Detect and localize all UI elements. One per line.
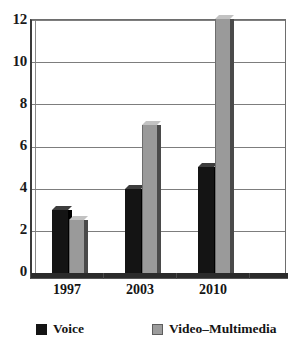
y-tick-label-2: 2	[3, 222, 27, 237]
gridline-12	[32, 20, 285, 21]
y-tick-label-4: 4	[3, 180, 27, 195]
gridline-10	[32, 62, 285, 63]
y-tick-label-8: 8	[3, 96, 27, 111]
bar-side	[84, 220, 88, 273]
y-tick-label-12: 12	[3, 12, 27, 27]
x-tick-3	[249, 273, 250, 279]
y-tick-label-6: 6	[3, 138, 27, 153]
bar-video-2010	[215, 19, 230, 273]
x-tick-label-2010: 2010	[189, 282, 237, 298]
x-axis-labels: 1997 2003 2010	[30, 282, 286, 300]
legend-label-voice: Voice	[53, 321, 84, 337]
bar-voice-2010	[198, 167, 214, 273]
x-tick-2	[176, 273, 177, 279]
y-tick-label-0: 0	[3, 264, 27, 279]
legend: Voice Video–Multimedia	[0, 320, 300, 342]
bar-chart: 12 10 8 6 4 2 0	[0, 0, 300, 348]
plot-area	[30, 19, 286, 273]
bar-video-2003	[142, 125, 157, 273]
bar-side	[157, 125, 161, 273]
y-tick-label-10: 10	[3, 54, 27, 69]
bar-voice-1997	[52, 210, 68, 273]
legend-swatch-voice-icon	[36, 324, 47, 335]
bar-side	[230, 19, 234, 273]
gridline-8	[32, 104, 285, 105]
legend-item-video-multimedia: Video–Multimedia	[152, 320, 277, 338]
bar-face	[125, 189, 141, 273]
x-tick-label-2003: 2003	[116, 282, 164, 298]
x-tick-0	[30, 273, 31, 279]
bar-face	[142, 125, 157, 273]
y-axis: 12 10 8 6 4 2 0	[0, 0, 27, 348]
bar-face	[215, 19, 230, 273]
bar-voice-2003	[125, 189, 141, 273]
bar-face	[198, 167, 214, 273]
bar-face	[69, 220, 84, 273]
x-axis	[30, 273, 286, 281]
legend-item-voice: Voice	[36, 320, 84, 338]
legend-swatch-video-icon	[152, 324, 163, 335]
x-tick-1	[103, 273, 104, 279]
legend-label-video-multimedia: Video–Multimedia	[169, 321, 277, 337]
bar-face	[52, 210, 68, 273]
bar-video-1997	[69, 220, 84, 273]
x-tick-label-1997: 1997	[43, 282, 91, 298]
